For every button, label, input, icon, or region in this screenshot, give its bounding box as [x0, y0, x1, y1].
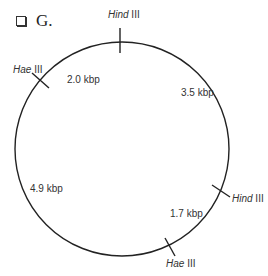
site-label-hae-bottom: Hae III — [166, 258, 195, 269]
site-tick-hind-right — [212, 185, 230, 197]
fragment-label-4-9: 4.9 kbp — [30, 183, 63, 194]
site-label-hae-upper: Hae III — [13, 64, 42, 75]
plasmid-map: Hind III Hae III Hind III Hae III 2.0 kb… — [0, 0, 268, 276]
fragment-label-3-5: 3.5 kbp — [181, 87, 214, 98]
fragment-label-2-0: 2.0 kbp — [67, 74, 100, 85]
site-tick-hae-upper — [32, 73, 49, 88]
site-label-hind-right: Hind III — [232, 193, 264, 204]
plasmid-circle — [15, 42, 229, 256]
site-label-hind-top: Hind III — [108, 9, 140, 20]
fragment-label-1-7: 1.7 kbp — [170, 208, 203, 219]
